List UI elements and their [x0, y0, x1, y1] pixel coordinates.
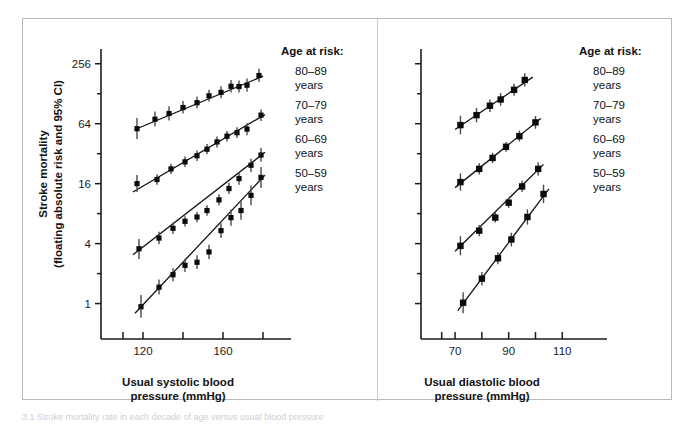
data-point: [204, 147, 209, 152]
regression-line: [455, 77, 533, 129]
x-axis-tick-label: 110: [553, 345, 571, 357]
legend-item-60-69: 60–69 years: [295, 133, 327, 160]
data-point: [519, 183, 525, 189]
data-point: [535, 166, 541, 172]
data-point: [244, 126, 249, 131]
data-point: [134, 126, 139, 131]
data-point: [194, 214, 199, 219]
data-point: [138, 304, 143, 309]
legend-title: Age at risk:: [579, 45, 675, 57]
x-axis-tick-label: 160: [213, 345, 232, 357]
data-point: [487, 103, 493, 109]
data-point: [505, 200, 511, 206]
legend-item-50-59: 50–59 years: [295, 167, 327, 194]
data-point: [503, 144, 509, 150]
data-point: [236, 84, 241, 89]
data-point: [228, 215, 233, 220]
data-point: [258, 113, 263, 118]
data-point: [258, 152, 263, 157]
legend-systolic: Age at risk: 80–89 years 70–79 years 60–…: [281, 45, 377, 225]
data-point: [168, 166, 173, 171]
data-point: [522, 77, 528, 83]
data-point: [476, 227, 482, 233]
legend-item-80-89: 80–89 years: [295, 65, 327, 92]
data-point: [479, 275, 485, 281]
data-point: [516, 133, 522, 139]
series-80-89------: [134, 69, 263, 139]
data-point: [180, 105, 185, 110]
data-point: [166, 111, 171, 116]
data-point: [136, 246, 141, 251]
legend-range: 50–59: [295, 167, 327, 181]
y-axis-title-line2: (floating absolute risk and 95% CI): [51, 54, 66, 294]
data-point: [457, 122, 463, 128]
data-point: [457, 243, 463, 249]
data-point: [476, 166, 482, 172]
data-point: [524, 214, 530, 220]
data-point: [206, 93, 211, 98]
data-point: [248, 163, 253, 168]
regression-line: [135, 175, 265, 313]
legend-item-80-89: 80–89 years: [593, 65, 625, 92]
legend-unit: years: [593, 181, 625, 195]
legend-range: 60–69: [593, 133, 625, 147]
data-point: [154, 177, 159, 182]
y-axis-title-line1: Stroke mortality: [36, 54, 51, 294]
panel-systolic: Stroke mortality (floating absolute risk…: [23, 19, 377, 401]
figure-caption: 3.1 Stroke mortality rate in each decade…: [22, 412, 672, 422]
legend-item-60-69: 60–69 years: [593, 133, 625, 160]
x-axis-title-systolic: Usual systolic blood pressure (mmHg): [63, 375, 293, 403]
data-point: [218, 228, 223, 233]
legend-unit: years: [593, 79, 625, 93]
data-point: [214, 139, 219, 144]
x-axis-tick-label: 90: [502, 345, 515, 357]
data-point: [134, 181, 139, 186]
data-point: [228, 84, 233, 89]
legend-title: Age at risk:: [281, 45, 377, 57]
data-point: [457, 179, 463, 185]
legend-item-50-59: 50–59 years: [593, 167, 625, 194]
x-axis-tick-label: 120: [133, 345, 152, 357]
data-point: [156, 235, 161, 240]
y-axis-tick-label: 16: [78, 178, 91, 190]
x-axis-title-line1: Usual systolic blood: [63, 375, 293, 389]
data-point: [540, 191, 546, 197]
series-50-59------: [135, 167, 265, 318]
data-point: [226, 186, 231, 191]
x-axis-title-line2: pressure (mmHg): [63, 389, 293, 403]
regression-line: [455, 119, 541, 188]
data-point: [248, 193, 253, 198]
y-axis-tick-label: 1: [85, 298, 91, 310]
data-point: [489, 155, 495, 161]
data-point: [156, 285, 161, 290]
data-point: [194, 153, 199, 158]
data-point: [258, 175, 263, 180]
x-axis-tick-label: 70: [449, 345, 462, 357]
data-point: [206, 249, 211, 254]
data-point: [170, 226, 175, 231]
legend-unit: years: [295, 181, 327, 195]
legend-range: 80–89: [295, 65, 327, 79]
series-60-69------: [133, 148, 265, 259]
x-axis-title-line1: Usual diastolic blood: [377, 375, 587, 389]
data-point: [218, 90, 223, 95]
data-point: [508, 236, 514, 242]
data-point: [234, 130, 239, 135]
data-point: [224, 134, 229, 139]
y-axis-tick-label: 256: [72, 58, 91, 70]
data-point: [244, 83, 249, 88]
data-point: [194, 260, 199, 265]
regression-line: [458, 189, 549, 311]
legend-range: 80–89: [593, 65, 625, 79]
data-point: [152, 117, 157, 122]
data-point: [497, 96, 503, 102]
data-point: [182, 219, 187, 224]
series-80-89------: [455, 73, 533, 134]
legend-range: 70–79: [295, 99, 327, 113]
data-point: [194, 100, 199, 105]
data-point: [256, 73, 261, 78]
legend-diastolic: Age at risk: 80–89 years 70–79 years 60–…: [579, 45, 675, 225]
data-point: [460, 300, 466, 306]
x-axis-title-line2: pressure (mmHg): [377, 389, 587, 403]
panel-diastolic: 7090110 Usual diastolic blood pressure (…: [377, 19, 673, 401]
